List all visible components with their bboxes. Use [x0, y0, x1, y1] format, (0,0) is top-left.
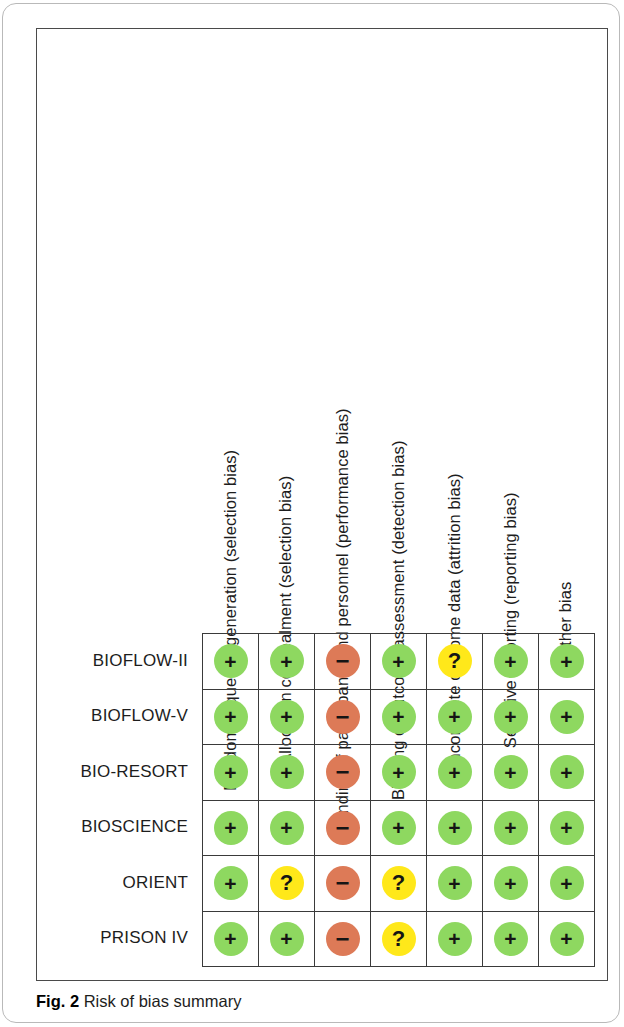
judgement-symbol: + — [448, 706, 460, 727]
grid-cell: + — [203, 634, 259, 690]
grid-cell: − — [315, 801, 371, 857]
judgement-symbol: + — [560, 817, 572, 838]
grid-cell: + — [203, 856, 259, 912]
column-header-4: Blinding of outcome assessment (detectio… — [370, 60, 426, 628]
low-risk-icon: + — [494, 644, 528, 678]
low-risk-icon: + — [382, 755, 416, 789]
judgement-symbol: + — [448, 873, 460, 894]
row-label-bioflow-ii: BIOFLOW-II — [0, 633, 188, 689]
judgement-symbol: + — [504, 873, 516, 894]
low-risk-icon: + — [550, 755, 584, 789]
judgement-symbol: + — [560, 762, 572, 783]
grid-cell: + — [539, 912, 595, 968]
judgement-symbol: − — [335, 649, 349, 673]
column-header-5: Incomplete outcome data (attrition bias) — [426, 60, 482, 628]
judgement-symbol: − — [335, 816, 349, 840]
low-risk-icon: + — [494, 700, 528, 734]
row-label-orient: ORIENT — [0, 855, 188, 911]
judgement-symbol: + — [392, 706, 404, 727]
low-risk-icon: + — [438, 866, 472, 900]
grid-cell: + — [371, 690, 427, 746]
grid-cell: + — [203, 801, 259, 857]
judgement-symbol: + — [560, 928, 572, 949]
high-risk-icon: − — [326, 922, 360, 956]
row-label-group: BIOFLOW-IIBIOFLOW-VBIO-RESORTBIOSCIENCEO… — [0, 633, 196, 966]
judgement-symbol: + — [280, 651, 292, 672]
judgement-symbol: + — [280, 762, 292, 783]
low-risk-icon: + — [550, 700, 584, 734]
grid-cell: + — [483, 634, 539, 690]
low-risk-icon: + — [214, 866, 248, 900]
figure-caption: Fig. 2 Risk of bias summary — [36, 992, 241, 1011]
low-risk-icon: + — [438, 811, 472, 845]
column-header-7: Other bias — [538, 60, 594, 628]
grid-cell: + — [539, 801, 595, 857]
low-risk-icon: + — [494, 811, 528, 845]
low-risk-icon: + — [550, 644, 584, 678]
judgement-symbol: − — [335, 927, 349, 951]
low-risk-icon: + — [494, 755, 528, 789]
row-label-bioflow-v: BIOFLOW-V — [0, 689, 188, 745]
judgement-symbol: + — [280, 706, 292, 727]
low-risk-icon: + — [550, 866, 584, 900]
judgement-symbol: + — [504, 651, 516, 672]
grid-cell: − — [315, 634, 371, 690]
grid-cell: + — [203, 745, 259, 801]
judgement-symbol: + — [224, 928, 236, 949]
grid-cell: − — [315, 690, 371, 746]
low-risk-icon: + — [270, 922, 304, 956]
row-label-prison-iv: PRISON IV — [0, 911, 188, 967]
grid-cell: + — [259, 912, 315, 968]
low-risk-icon: + — [382, 700, 416, 734]
judgement-symbol: + — [448, 928, 460, 949]
judgement-symbol: + — [392, 651, 404, 672]
low-risk-icon: + — [214, 755, 248, 789]
low-risk-icon: + — [438, 922, 472, 956]
judgement-symbol: − — [335, 705, 349, 729]
high-risk-icon: − — [326, 700, 360, 734]
grid-cell: ? — [371, 912, 427, 968]
judgement-symbol: − — [335, 871, 349, 895]
low-risk-icon: + — [214, 644, 248, 678]
grid-cell: + — [483, 801, 539, 857]
judgement-symbol: + — [504, 928, 516, 949]
low-risk-icon: + — [270, 811, 304, 845]
column-header-6: Selective reporting (reporting bias) — [482, 60, 538, 628]
judgement-symbol: + — [560, 706, 572, 727]
judgement-symbol: + — [392, 762, 404, 783]
row-label-bio-resort: BIO-RESORT — [0, 744, 188, 800]
caption-label: Fig. 2 — [36, 992, 79, 1010]
low-risk-icon: + — [438, 755, 472, 789]
judgement-symbol: ? — [448, 650, 461, 672]
grid-cell: − — [315, 745, 371, 801]
judgement-symbol: ? — [392, 928, 405, 950]
low-risk-icon: + — [270, 700, 304, 734]
low-risk-icon: + — [270, 755, 304, 789]
grid-cell: − — [315, 856, 371, 912]
low-risk-icon: + — [382, 644, 416, 678]
judgement-symbol: + — [224, 706, 236, 727]
judgement-symbol: ? — [280, 872, 293, 894]
grid-cell: + — [259, 801, 315, 857]
grid-cell: + — [427, 745, 483, 801]
grid-cell: + — [483, 856, 539, 912]
low-risk-icon: + — [550, 922, 584, 956]
grid-cell: ? — [371, 856, 427, 912]
low-risk-icon: + — [214, 700, 248, 734]
judgement-symbol: + — [448, 762, 460, 783]
low-risk-icon: + — [270, 644, 304, 678]
high-risk-icon: − — [326, 866, 360, 900]
unclear-risk-icon: ? — [270, 866, 304, 900]
grid-cell: ? — [259, 856, 315, 912]
grid-cell: + — [539, 856, 595, 912]
unclear-risk-icon: ? — [382, 922, 416, 956]
column-header-1: Random sequence generation (selection bi… — [202, 60, 258, 628]
judgement-symbol: + — [392, 817, 404, 838]
judgement-symbol: + — [224, 817, 236, 838]
high-risk-icon: − — [326, 811, 360, 845]
grid-cell: + — [259, 634, 315, 690]
grid-cell: + — [371, 801, 427, 857]
grid-cell: + — [203, 690, 259, 746]
caption-text: Risk of bias summary — [79, 992, 241, 1010]
low-risk-icon: + — [494, 866, 528, 900]
